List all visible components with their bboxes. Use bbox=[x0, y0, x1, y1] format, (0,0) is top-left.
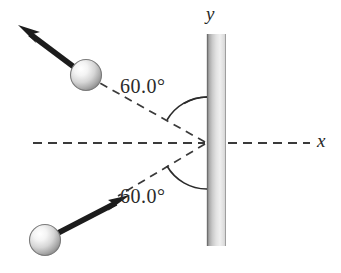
upper-angle-arc-main bbox=[167, 97, 207, 120]
outgoing-velocity-arrow bbox=[18, 25, 74, 67]
incidence-angle-label-upper: 60.0° bbox=[120, 76, 166, 96]
incidence-angle-label-lower: 60.0° bbox=[120, 186, 166, 206]
physics-diagram: y x 60.0° 60.0° bbox=[0, 0, 341, 273]
diagram-canvas bbox=[0, 0, 341, 273]
y-axis-label: y bbox=[206, 4, 214, 23]
x-axis-label: x bbox=[317, 131, 325, 150]
lower-angle-arc-main bbox=[167, 166, 207, 189]
incoming-ball bbox=[30, 225, 61, 256]
outgoing-ball bbox=[71, 60, 102, 91]
vertical-wall bbox=[207, 34, 226, 246]
